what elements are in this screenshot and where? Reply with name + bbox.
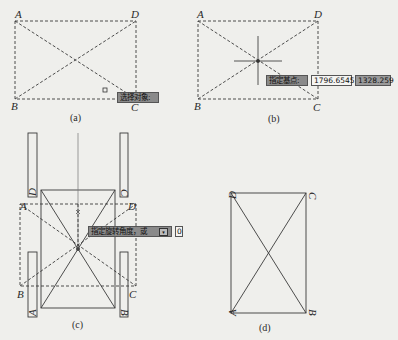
vertex-label-a: A <box>14 8 22 20</box>
diagram-canvas: A D B C (a) A D B C (b) <box>0 0 398 340</box>
label-bar-bottom-left <box>28 252 37 317</box>
vertex-label-d: D <box>226 191 238 200</box>
side-label-bottom-right: B <box>119 309 131 316</box>
caption-b: (b) <box>268 113 280 125</box>
vertex-label-d: D <box>313 8 322 20</box>
vertex-label-b: B <box>17 288 24 300</box>
vertex-label-b: B <box>307 309 319 316</box>
rotation-angle-prompt-text: 指定旋转角度，或 <box>91 227 147 236</box>
vertex-label-b: B <box>194 100 201 112</box>
vertex-label-c: C <box>307 192 319 200</box>
panel-c <box>20 133 136 317</box>
pickbox-cursor-icon <box>103 88 107 92</box>
rotation-angle-input[interactable]: 0 <box>175 226 183 237</box>
panel-a <box>15 21 136 99</box>
base-point-icon <box>76 247 80 251</box>
vertex-label-a: A <box>226 309 238 317</box>
vertex-label-c: C <box>129 288 137 300</box>
dropdown-arrow-icon[interactable]: ▾ <box>159 228 168 236</box>
caption-a: (a) <box>70 112 81 124</box>
y-coordinate-input[interactable]: 1328.259 <box>355 75 391 86</box>
side-label-top-right: C <box>119 189 131 197</box>
label-bar-bottom-right <box>120 252 128 317</box>
rotation-angle-prompt: 指定旋转角度，或 ▾ <box>88 226 172 237</box>
vertex-label-d: D <box>127 200 136 212</box>
vertex-label-d: D <box>130 8 139 20</box>
label-bar-top-left <box>28 133 37 197</box>
side-label-top-left: D <box>26 188 38 197</box>
base-point-prompt: 指定基点: <box>266 75 308 86</box>
caption-c: (c) <box>72 319 83 331</box>
vertex-label-b: B <box>11 100 18 112</box>
panel-d <box>231 193 306 313</box>
vertex-label-c: C <box>313 101 321 113</box>
side-label-bottom-left: A <box>26 309 38 317</box>
vertex-label-a: A <box>19 200 27 212</box>
vertex-label-a: A <box>196 8 204 20</box>
caption-d: (d) <box>259 322 271 334</box>
x-coordinate-input[interactable]: 1796.6545 <box>311 75 352 86</box>
select-objects-tooltip: 选择对象: <box>117 92 159 103</box>
label-bar-top-right <box>120 133 128 197</box>
